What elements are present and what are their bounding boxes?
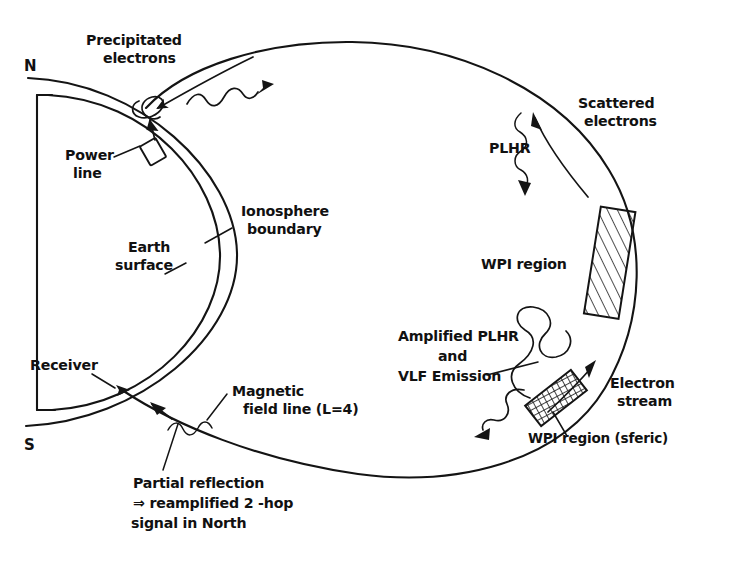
receiver-leader <box>92 374 115 388</box>
label-ionosphere-line2: boundary <box>247 221 321 237</box>
label-earth-line2: surface <box>115 257 173 273</box>
power-line-leader <box>114 146 140 157</box>
label-amplified-line1: Amplified PLHR <box>398 328 519 344</box>
wpi-region-box <box>584 207 635 319</box>
plhr-wave-arrowhead <box>518 180 531 196</box>
vlf-emission-arrowhead <box>474 428 490 440</box>
scattered-electrons-arrowhead <box>531 112 542 130</box>
diagram-svg: N S Precipitated electrons Power line Io… <box>0 0 747 567</box>
label-amplified-line3: VLF Emission <box>398 368 501 384</box>
label-south: S <box>24 436 35 454</box>
label-partial-line1: Partial reflection <box>133 475 264 491</box>
label-partial-line2: ⇒ reamplified 2 -hop <box>133 495 293 511</box>
label-power-line-line1: Power <box>65 147 114 163</box>
label-partial-line3: signal in North <box>131 515 246 531</box>
electron-stream-arrowhead <box>585 360 596 378</box>
wpi-region-rect <box>584 207 635 319</box>
label-wpi-region: WPI region <box>481 256 567 272</box>
label-ionosphere-line1: Ionosphere <box>241 203 329 219</box>
label-electron-stream-line1: Electron <box>610 375 675 391</box>
label-magnetic-line1: Magnetic <box>232 383 304 399</box>
label-scattered-line1: Scattered <box>578 95 654 111</box>
label-power-line-line2: line <box>73 165 102 181</box>
label-precipitated-electrons-line1: Precipitated <box>86 32 182 48</box>
label-receiver: Receiver <box>30 357 98 373</box>
partial-reflection-leader <box>163 424 178 470</box>
scattered-electrons-arrow <box>535 118 588 197</box>
label-electron-stream-line2: stream <box>617 393 672 409</box>
label-north: N <box>24 57 37 75</box>
label-scattered-line2: electrons <box>584 113 657 129</box>
label-plhr: PLHR <box>489 140 531 156</box>
label-earth-line1: Earth <box>128 239 170 255</box>
north-wave-squiggle <box>187 88 258 105</box>
north-interaction-markers <box>133 57 274 166</box>
figure-canvas: N S Precipitated electrons Power line Io… <box>0 0 747 567</box>
label-precipitated-electrons-line2: electrons <box>103 50 176 66</box>
label-wpi-region-sferic: WPI region (sferic) <box>528 430 668 446</box>
south-interaction-markers <box>92 374 212 470</box>
text-labels: N S Precipitated electrons Power line Io… <box>24 32 675 531</box>
label-magnetic-line2: field line (L=4) <box>243 401 359 417</box>
label-amplified-line2: and <box>438 348 467 364</box>
power-line-marker <box>140 138 167 166</box>
north-wave-arrowhead <box>256 80 274 95</box>
magnetic-field-leader <box>207 394 227 420</box>
vlf-emission-wave <box>483 389 524 430</box>
